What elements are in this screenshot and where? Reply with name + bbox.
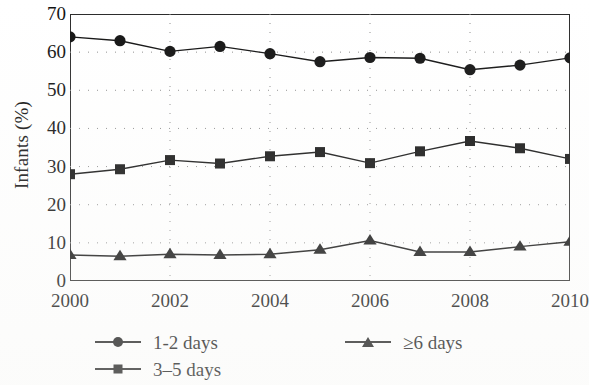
data-point-triangle: [463, 246, 476, 256]
data-point-square: [315, 147, 325, 157]
legend-label: 3–5 days: [141, 360, 221, 379]
chart-legend: 1-2 days3–5 days≥6 days: [95, 330, 565, 382]
legend-square-icon: [114, 365, 123, 374]
legend-label: ≥6 days: [391, 333, 463, 352]
chart-figure: Infants (%) 010203040506070 200020022004…: [0, 0, 589, 385]
legend-item[interactable]: ≥6 days: [345, 330, 463, 354]
data-point-triangle: [163, 248, 176, 258]
y-axis-tick-label: 30: [22, 157, 66, 176]
data-point-square: [70, 169, 75, 179]
y-axis-tick-label: 20: [22, 195, 66, 214]
data-point-square: [365, 158, 375, 168]
x-axis-tick-label: 2006: [335, 291, 405, 311]
legend-item[interactable]: 3–5 days: [95, 357, 221, 381]
data-point-circle: [70, 31, 76, 42]
legend-item[interactable]: 1-2 days: [95, 330, 218, 354]
x-axis-tick-label: 2002: [135, 291, 205, 311]
y-axis-tick-label: 60: [22, 42, 66, 61]
data-series: [70, 136, 570, 179]
data-point-circle: [264, 48, 275, 59]
legend-marker-sample: [95, 359, 141, 379]
data-point-circle: [164, 46, 175, 57]
data-point-circle: [364, 52, 375, 63]
y-axis-tick-label: 40: [22, 118, 66, 137]
legend-marker-sample: [95, 332, 141, 352]
data-point-circle: [314, 56, 325, 67]
data-point-circle: [414, 53, 425, 64]
data-point-triangle: [563, 235, 570, 245]
legend-label: 1-2 days: [141, 333, 218, 352]
x-axis-tick-label: 2004: [235, 291, 305, 311]
data-point-square: [515, 143, 525, 153]
data-point-square: [465, 136, 475, 146]
data-point-circle: [464, 64, 475, 75]
data-point-triangle: [263, 248, 276, 258]
data-point-square: [565, 154, 570, 164]
data-point-triangle: [113, 250, 126, 260]
legend-marker-sample: [345, 332, 391, 352]
y-axis-tick-label: 10: [22, 233, 66, 252]
y-axis-tick-label: 50: [22, 80, 66, 99]
legend-triangle-icon: [362, 337, 374, 347]
x-axis-tick-label: 2010: [535, 291, 589, 311]
data-point-triangle: [70, 249, 77, 259]
data-point-circle: [514, 60, 525, 71]
y-axis-tick-label: 70: [22, 4, 66, 23]
data-point-square: [215, 159, 225, 169]
data-point-circle: [564, 52, 570, 63]
data-point-triangle: [363, 234, 376, 244]
data-series: [70, 31, 570, 75]
data-point-circle: [214, 41, 225, 52]
series-line: [70, 141, 570, 174]
legend-circle-icon: [113, 337, 123, 347]
data-point-triangle: [513, 240, 526, 250]
data-point-square: [415, 146, 425, 156]
chart-plot-svg: [70, 14, 570, 281]
y-axis-tick-label: 0: [22, 271, 66, 290]
data-series: [70, 234, 570, 260]
x-axis-tick-label: 2000: [35, 291, 105, 311]
data-point-square: [265, 151, 275, 161]
data-series-layer: [70, 31, 570, 260]
data-point-triangle: [213, 249, 226, 259]
data-point-square: [115, 164, 125, 174]
x-axis-tick-label: 2008: [435, 291, 505, 311]
data-point-circle: [114, 35, 125, 46]
data-point-square: [165, 155, 175, 165]
